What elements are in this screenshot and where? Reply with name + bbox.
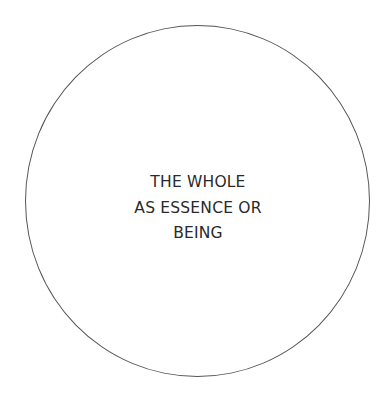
circle-label: THE WHOLE AS ESSENCE OR BEING <box>98 170 298 247</box>
label-line-1: THE WHOLE <box>98 170 298 196</box>
label-line-2: AS ESSENCE OR <box>98 196 298 222</box>
label-line-3: BEING <box>98 221 298 247</box>
